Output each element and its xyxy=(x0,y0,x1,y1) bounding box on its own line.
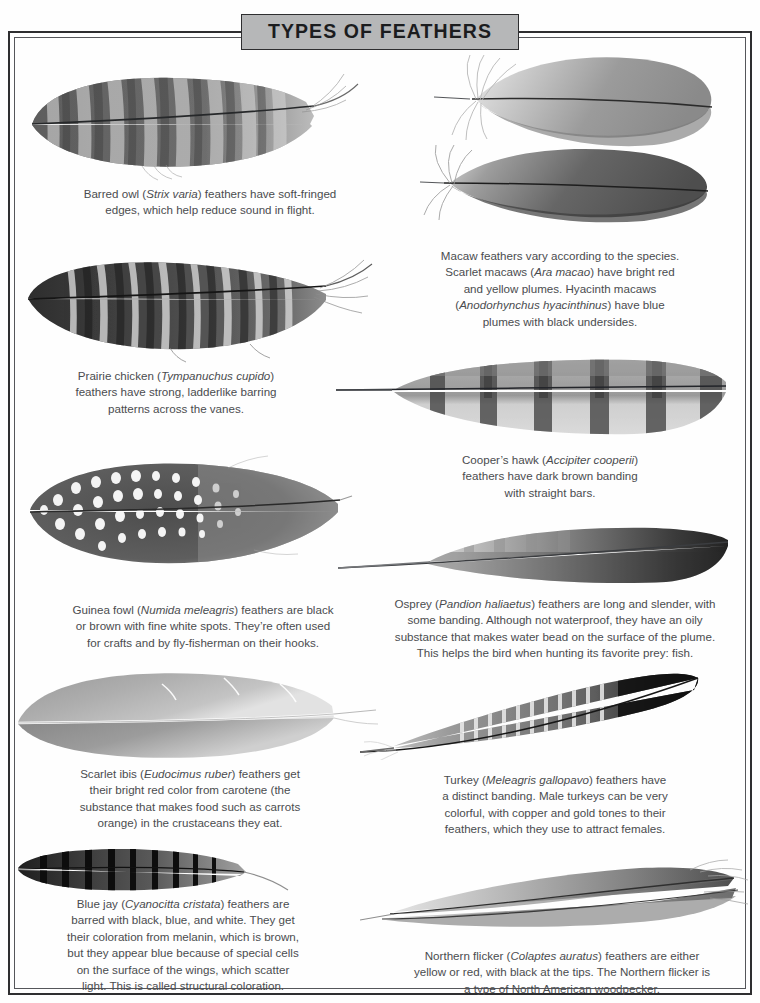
feather-image-scarlet-ibis xyxy=(12,662,378,760)
feather-image-guinea-fowl xyxy=(18,448,354,574)
feather-image-prairie-chicken xyxy=(20,252,380,364)
feather-image-barred-owl xyxy=(14,62,362,184)
feather-image-coopers-hawk xyxy=(334,356,734,444)
infographic-page: TYPES OF FEATHERS xyxy=(0,0,760,1003)
caption-scarlet-ibis: Scarlet ibis (Eudocimus ruber) feathers … xyxy=(38,766,342,832)
caption-blue-jay: Blue jay (Cyanocitta cristata) feathers … xyxy=(24,896,342,994)
title-plaque: TYPES OF FEATHERS xyxy=(241,14,519,50)
caption-coopers-hawk: Cooper’s hawk (Accipiter cooperii) feath… xyxy=(400,452,700,501)
feather-image-osprey xyxy=(336,512,736,592)
page-title: TYPES OF FEATHERS xyxy=(268,20,492,42)
caption-northern-flicker: Northern flicker (Colaptes auratus) feat… xyxy=(390,948,734,997)
page-title-container: TYPES OF FEATHERS xyxy=(0,14,760,50)
feather-image-blue-jay xyxy=(14,846,294,898)
feather-image-northern-flicker xyxy=(360,858,750,938)
caption-barred-owl: Barred owl (Strix varia) feathers have s… xyxy=(44,186,376,219)
feather-image-turkey xyxy=(350,660,750,760)
caption-guinea-fowl: Guinea fowl (Numida meleagris) feathers … xyxy=(30,602,376,651)
caption-turkey: Turkey (Meleagris gallopavo) feathers ha… xyxy=(398,772,712,838)
caption-prairie-chicken: Prairie chicken (Tympanuchus cupido) fea… xyxy=(30,368,322,417)
caption-macaw: Macaw feathers vary according to the spe… xyxy=(400,248,720,330)
feather-image-macaw xyxy=(420,55,750,240)
caption-osprey: Osprey (Pandion haliaetus) feathers are … xyxy=(374,596,736,662)
